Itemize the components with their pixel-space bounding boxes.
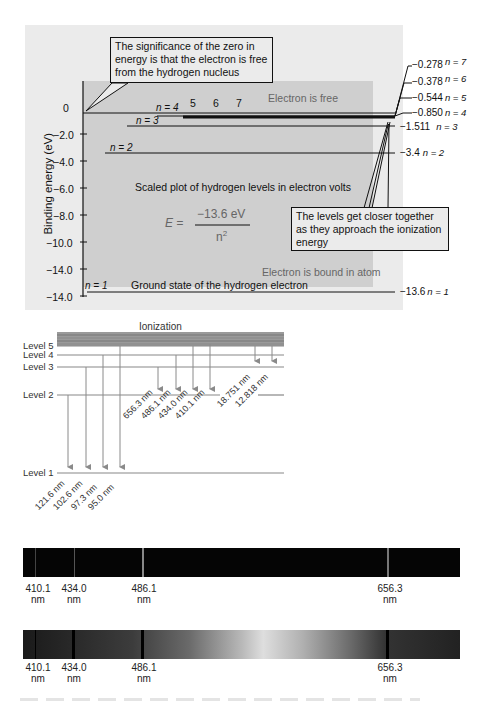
emission-label-486: 486.1nm [127, 583, 161, 605]
ionization-label: Ionization [139, 322, 182, 332]
emission-line-486 [142, 548, 144, 577]
absorption-line-656 [386, 630, 389, 659]
level-2-label: Level 2 [23, 390, 54, 400]
absorption-line-410 [35, 630, 36, 659]
level-4-label: Level 4 [23, 350, 54, 360]
absorption-line-486 [141, 630, 144, 659]
absorption-label-410: 410.1nm [21, 662, 55, 684]
absorption-label-434: 434.0nm [57, 662, 91, 684]
emission-label-434: 434.0nm [57, 583, 91, 605]
level-3-label: Level 3 [23, 362, 54, 372]
absorption-line-434 [72, 630, 75, 659]
absorption-label-486: 486.1nm [127, 662, 161, 684]
emission-spectrum-bar [23, 548, 460, 577]
emission-label-410: 410.1nm [21, 583, 55, 605]
emission-line-410 [35, 548, 36, 577]
absorption-label-656: 656.3nm [373, 662, 407, 684]
emission-line-434 [74, 548, 75, 577]
emission-label-656: 656.3nm [373, 583, 407, 605]
emission-line-656 [387, 548, 389, 577]
absorption-spectrum-bar [23, 630, 460, 659]
caption-remnant [20, 698, 420, 701]
level-1-label: Level 1 [23, 468, 54, 478]
